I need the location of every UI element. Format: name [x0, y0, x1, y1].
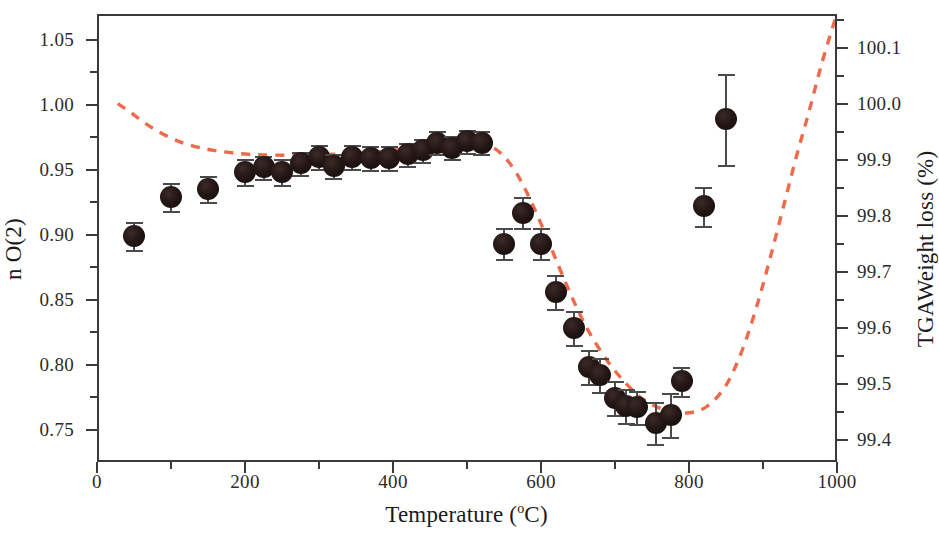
axis-tick [90, 71, 97, 73]
axis-tick [836, 462, 838, 473]
axis-tick [837, 47, 848, 49]
axis-tick [86, 39, 97, 41]
y-axis-tick-label: 0.90 [40, 224, 74, 246]
axis-tick [837, 271, 848, 273]
y-axis-tick-label: 0.75 [40, 419, 74, 441]
axis-tick [837, 439, 848, 441]
axis-tick [318, 462, 320, 469]
axis-tick [762, 462, 764, 469]
axis-tick [688, 462, 690, 473]
axis-tick [837, 103, 848, 105]
axis-tick [466, 462, 468, 469]
axis-tick [86, 299, 97, 301]
axis-tick [837, 131, 844, 133]
axis-tick [86, 169, 97, 171]
axis-tick [244, 462, 246, 473]
plot-frame [97, 14, 837, 462]
secondary-y-axis-tick-label: 99.7 [857, 261, 891, 283]
axis-tick [837, 19, 844, 21]
secondary-y-axis-tick-labels: 99.499.599.699.799.899.9100.0100.1 [849, 14, 933, 462]
x-axis-tick-label: 400 [378, 471, 407, 493]
axis-tick [90, 331, 97, 333]
axis-tick [837, 383, 848, 385]
axis-tick [837, 327, 848, 329]
axis-tick [837, 159, 848, 161]
axis-tick [837, 75, 844, 77]
axis-tick [86, 104, 97, 106]
y-axis-tick-label: 1.05 [40, 29, 74, 51]
axis-tick [96, 462, 98, 473]
axis-tick [837, 187, 844, 189]
x-axis-title: Temperature (oC) [0, 502, 933, 528]
x-axis-tick-label: 600 [526, 471, 555, 493]
axis-tick [86, 234, 97, 236]
axis-tick [837, 299, 844, 301]
axis-tick [90, 201, 97, 203]
axis-tick [86, 429, 97, 431]
x-axis-title-tail: C) [524, 502, 547, 527]
x-axis-tick-label: 1000 [817, 471, 856, 493]
axis-tick [90, 396, 97, 398]
secondary-y-axis-tick-label: 99.4 [857, 429, 891, 451]
x-axis-tick-label: 800 [674, 471, 703, 493]
y-axis-tick-label: 1.00 [40, 94, 74, 116]
axis-tick [86, 364, 97, 366]
x-axis-tick-labels: 02004006008001000 [97, 471, 837, 497]
y-axis-tick-label: 0.85 [40, 289, 74, 311]
y-axis-tick-label: 0.95 [40, 159, 74, 181]
axis-tick [837, 411, 844, 413]
secondary-y-axis-tick-label: 99.9 [857, 149, 891, 171]
axis-tick [170, 462, 172, 469]
secondary-y-axis-tick-label: 100.0 [857, 93, 901, 115]
y-axis-tick-labels: 0.750.800.850.900.951.001.05 [0, 14, 84, 462]
axis-tick [90, 136, 97, 138]
axis-tick [90, 266, 97, 268]
axis-tick [614, 462, 616, 469]
secondary-y-axis-tick-label: 99.8 [857, 205, 891, 227]
x-axis-tick-label: 200 [230, 471, 259, 493]
axis-tick [392, 462, 394, 473]
secondary-y-axis-tick-label: 99.6 [857, 317, 891, 339]
secondary-y-axis-tick-label: 99.5 [857, 373, 891, 395]
axis-tick [540, 462, 542, 473]
axis-tick [837, 215, 848, 217]
axis-tick [837, 355, 844, 357]
x-axis-title-main: Temperature ( [385, 502, 517, 527]
secondary-y-axis-tick-label: 100.1 [857, 37, 901, 59]
y-axis-tick-label: 0.80 [40, 354, 74, 376]
axis-tick [837, 243, 844, 245]
x-axis-tick-label: 0 [92, 471, 102, 493]
